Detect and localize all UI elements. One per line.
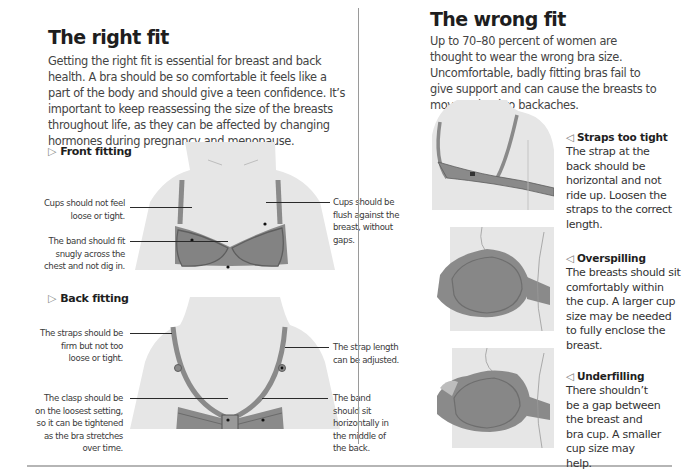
underfilling-body: There shouldn’t be a gap between the bre…: [566, 384, 662, 472]
triangle-left-icon: ◁: [566, 131, 574, 143]
back-fitting-illustration: [130, 297, 340, 429]
underfilling-heading: ◁Underfilling: [566, 370, 644, 382]
overspilling-illustration: [432, 227, 554, 331]
caption-straps-firm: The straps should be firm but not too lo…: [40, 327, 123, 365]
triangle-left-icon: ◁: [566, 370, 574, 382]
caption-cups-not-loose: Cups should not feel loose or tight.: [40, 197, 125, 222]
front-fitting-heading: ▷Front fitting: [48, 145, 132, 158]
leader-line: [130, 241, 228, 242]
right-fit-title: The right fit: [48, 26, 169, 48]
leader-line: [262, 398, 328, 399]
caption-cups-flush: Cups should be flush against the breast,…: [333, 196, 403, 246]
straps-too-tight-body: The strap at the back should be horizont…: [566, 145, 676, 233]
front-fitting-illustration: [130, 142, 340, 270]
wrong-fit-title: The wrong fit: [430, 8, 566, 30]
straps-too-tight-heading: ◁Straps too tight: [566, 131, 668, 143]
leader-line: [130, 207, 192, 208]
caption-strap-length: The strap length can be adjusted.: [333, 341, 403, 366]
leader-line: [266, 202, 330, 203]
underfilling-illustration: [432, 348, 554, 448]
straps-too-tight-illustration: [432, 100, 554, 210]
right-fit-intro: Getting the right fit is essential for b…: [48, 53, 350, 149]
caption-band-snug: The band should fit snugly across the ch…: [40, 235, 125, 273]
back-fitting-heading: ▷Back fitting: [48, 292, 129, 305]
triangle-right-icon: ▷: [48, 145, 56, 158]
leader-line: [130, 398, 228, 399]
leader-line: [130, 333, 172, 334]
column-divider: [358, 8, 359, 444]
triangle-right-icon: ▷: [48, 292, 56, 305]
leader-line: [285, 347, 329, 348]
triangle-left-icon: ◁: [566, 252, 574, 264]
overspilling-body: The breasts should sit comfortably withi…: [566, 266, 684, 354]
caption-clasp-loosest: The clasp should be on the loosest setti…: [35, 392, 123, 455]
caption-band-horizontal: The band should sit horizontally in the …: [333, 392, 389, 455]
overspilling-heading: ◁Overspilling: [566, 252, 646, 264]
